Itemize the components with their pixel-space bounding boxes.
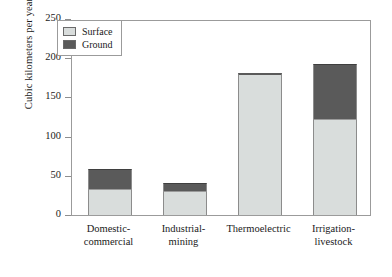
y-tick-label: 50: [21, 169, 61, 180]
x-axis-label-line: livestock: [286, 235, 382, 248]
bar-segment-ground: [163, 183, 207, 192]
bar-industrial-mining: [163, 183, 207, 215]
legend-item-surface: Surface: [63, 25, 113, 38]
bar-thermoelectric: [238, 73, 282, 215]
bar-segment-surface: [238, 73, 282, 215]
bar-segment-ground: [88, 169, 132, 189]
legend-label-ground: Ground: [82, 39, 113, 50]
bar-segment-surface: [163, 191, 207, 215]
bar-segment-ground: [313, 64, 357, 120]
legend-label-surface: Surface: [82, 26, 113, 37]
x-axis-label-line: mining: [136, 235, 232, 248]
bar-segment-surface: [313, 119, 357, 215]
y-tick-label: 250: [21, 12, 61, 23]
y-tick-label: 200: [21, 51, 61, 62]
legend-item-ground: Ground: [63, 38, 113, 51]
legend-swatch-surface: [63, 27, 76, 36]
bar-segment-surface: [88, 189, 132, 215]
y-tick-label: 150: [21, 90, 61, 101]
x-axis-label-line: Irrigation-: [286, 222, 382, 235]
bar-irrigation-livestock: [313, 64, 357, 215]
legend: Surface Ground: [57, 20, 122, 56]
y-tick-label: 0: [21, 208, 61, 219]
bar-domestic-commercial: [88, 169, 132, 215]
legend-swatch-ground: [63, 40, 76, 49]
bar-chart: Cubic kilometers per year 05010015020025…: [0, 0, 392, 277]
y-tick-label: 100: [21, 130, 61, 141]
x-axis-label: Irrigation-livestock: [286, 222, 382, 248]
